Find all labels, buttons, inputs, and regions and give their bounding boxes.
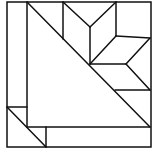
star-diamond1-a [63,2,90,27]
block-lines [7,2,150,147]
outer-square [7,2,151,147]
star-diamond2-b [90,36,116,64]
quilt-block-diagram [0,0,159,151]
star-horizontal-upper [116,36,150,38]
main-diagonal [27,2,150,127]
star-diamond1-b [90,2,116,27]
star-diamond4-a [126,64,150,90]
star-diamond3-a [126,38,150,64]
